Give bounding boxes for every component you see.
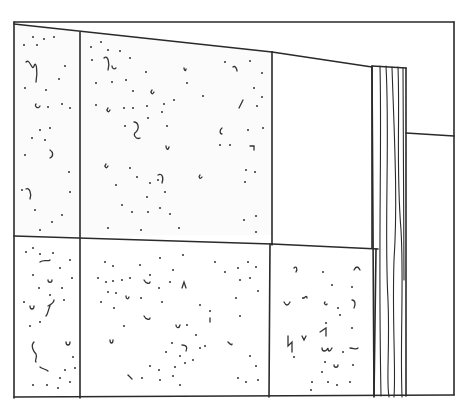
bottom-right-panel-left-edge — [269, 244, 270, 397]
middle-seam-right — [272, 244, 378, 249]
middle-seam-left — [14, 236, 272, 244]
wood-post — [372, 66, 406, 397]
wall-drawing — [0, 0, 466, 405]
illustration — [0, 0, 466, 405]
panel-top-edge — [14, 24, 372, 236]
right-wall-line — [406, 133, 454, 136]
